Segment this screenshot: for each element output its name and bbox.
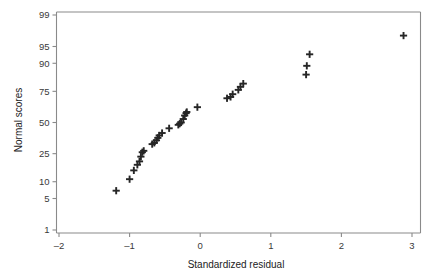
x-tick-label-3: 3 <box>409 240 414 251</box>
y-tick-label-99: 99 <box>39 9 50 20</box>
chart-canvas: 1510255075909599 –2–10123 Standardized r… <box>0 0 432 275</box>
normal-probability-plot-figure: 1510255075909599 –2–10123 Standardized r… <box>0 0 432 275</box>
y-tick-label-75: 75 <box>39 86 50 97</box>
y-tick-label-50: 50 <box>39 117 50 128</box>
y-tick-label-1: 1 <box>44 224 49 235</box>
y-tick-label-90: 90 <box>39 58 50 69</box>
x-axis-title: Standardized residual <box>188 259 285 270</box>
x-tick-label--1: –1 <box>124 240 135 251</box>
y-tick-label-95: 95 <box>39 41 50 52</box>
x-tick-label-1: 1 <box>268 240 273 251</box>
x-tick-label--2: –2 <box>54 240 65 251</box>
y-tick-label-25: 25 <box>39 148 50 159</box>
y-tick-label-5: 5 <box>44 193 49 204</box>
figure-background <box>0 0 432 275</box>
y-axis-title: Normal scores <box>13 88 24 152</box>
y-tick-label-10: 10 <box>39 176 50 187</box>
x-tick-label-2: 2 <box>339 240 344 251</box>
x-tick-label-0: 0 <box>198 240 203 251</box>
